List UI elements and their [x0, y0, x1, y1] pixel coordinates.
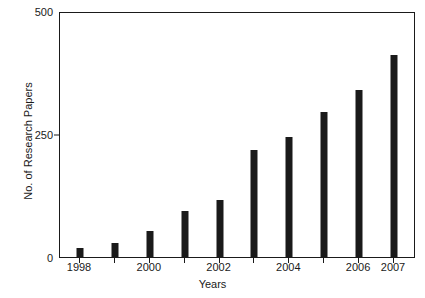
bar [111, 243, 118, 257]
x-axis-tick-label: 1998 [67, 262, 91, 273]
bar [251, 150, 258, 257]
x-axis-tick-label: 2002 [206, 262, 230, 273]
x-axis-tick-mark [184, 258, 185, 263]
plot-area [59, 12, 415, 258]
x-axis-tick-label: 2007 [381, 262, 405, 273]
x-axis-tick-label: 2006 [346, 262, 370, 273]
bar [77, 248, 84, 257]
bar [286, 137, 293, 257]
y-axis-title: No. of Research Papers [22, 61, 34, 221]
x-axis-tick-label: 2000 [137, 262, 161, 273]
bar [146, 231, 153, 257]
x-axis-title: Years [0, 278, 425, 290]
x-axis-tick-mark [323, 258, 324, 263]
bar [181, 211, 188, 257]
x-axis-tick-mark [114, 258, 115, 263]
x-axis-tick-label: 2004 [276, 262, 300, 273]
y-axis-tick-label: 0 [47, 253, 53, 264]
bar [356, 90, 363, 257]
y-axis-tick-label: 250 [35, 130, 53, 141]
chart-page: 0250500 No. of Research Papers 199820002… [0, 0, 425, 298]
bar [391, 55, 398, 257]
x-axis-tick-mark [253, 258, 254, 263]
y-axis-tick-label: 500 [35, 7, 53, 18]
bar [321, 112, 328, 257]
y-axis-tick-mark [54, 135, 59, 136]
bar [216, 200, 223, 257]
